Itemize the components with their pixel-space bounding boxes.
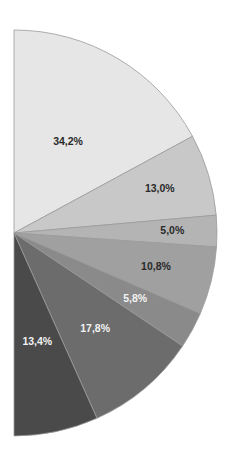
slice-label-4: 10,8% xyxy=(141,260,171,272)
slice-label-1: 34,2% xyxy=(53,135,83,147)
slice-label-2: 13,0% xyxy=(145,182,175,194)
pie-slices xyxy=(14,30,217,436)
slice-label-3: 5,0% xyxy=(160,224,185,236)
slice-label-7: 13,4% xyxy=(22,335,52,347)
slice-label-6: 17,8% xyxy=(80,322,110,334)
half-pie-chart: 34,2%13,0%5,0%10,8%5,8%17,8%13,4% xyxy=(0,0,230,470)
slice-label-5: 5,8% xyxy=(123,292,148,304)
